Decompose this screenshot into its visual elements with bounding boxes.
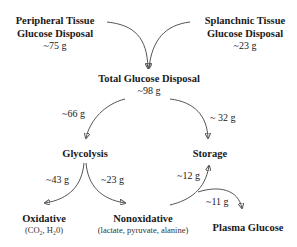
nonoxidative-title: Nonoxidative <box>88 212 198 225</box>
edge-label-nonoxidative: ~23 g <box>101 174 124 185</box>
node-storage: Storage <box>180 147 240 160</box>
edge-label-oxidative: ~43 g <box>46 174 69 185</box>
edge-label-glycolysis: ~66 g <box>62 108 85 119</box>
oxidative-detail: (CO₂, H₂0) <box>12 225 76 236</box>
storage-title: Storage <box>180 147 240 160</box>
splanchnic-title-line2: Glucose Disposal <box>200 27 290 40</box>
total-title: Total Glucose Disposal <box>88 72 210 85</box>
nonoxidative-detail: (lactate, pyruvate, alanine) <box>88 225 198 236</box>
peripheral-title-line2: Glucose Disposal <box>12 27 98 40</box>
node-nonoxidative: Nonoxidative (lactate, pyruvate, alanine… <box>88 212 198 236</box>
arrow-peripheral-to-total <box>107 22 148 68</box>
node-total-glucose-disposal: Total Glucose Disposal ~98 g <box>88 72 210 97</box>
edge-label-storage: ~ 32 g <box>210 112 235 123</box>
node-plasma-glucose: Plasma Glucose <box>205 221 291 234</box>
plasma-title: Plasma Glucose <box>205 221 291 234</box>
arrow-total-to-storage <box>170 99 208 138</box>
glycolysis-title: Glycolysis <box>55 147 115 160</box>
node-glycolysis: Glycolysis <box>55 147 115 160</box>
peripheral-amount: ~75 g <box>12 40 98 52</box>
arrow-splanchnic-to-total <box>149 22 190 68</box>
splanchnic-amount: ~23 g <box>200 40 290 52</box>
splanchnic-title-line1: Splanchnic Tissue <box>200 14 290 27</box>
node-oxidative: Oxidative (CO₂, H₂0) <box>12 212 76 236</box>
oxidative-title: Oxidative <box>12 212 76 225</box>
total-amount: ~98 g <box>88 85 210 97</box>
edge-label-to-plasma: ~11 g <box>206 196 229 207</box>
node-peripheral-tissue: Peripheral Tissue Glucose Disposal ~75 g <box>12 14 98 52</box>
node-splanchnic-tissue: Splanchnic Tissue Glucose Disposal ~23 g <box>200 14 290 52</box>
edge-label-to-storage: ~12 g <box>177 170 200 181</box>
arrow-total-to-glycolysis <box>86 99 125 138</box>
peripheral-title-line1: Peripheral Tissue <box>12 14 98 27</box>
